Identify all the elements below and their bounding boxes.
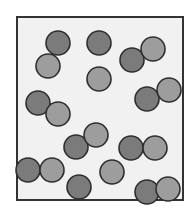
particle-dark — [67, 175, 91, 199]
particle-light — [157, 78, 181, 102]
particle-light — [46, 102, 70, 126]
particle-light — [141, 37, 165, 61]
particle-light — [36, 54, 60, 78]
particle-dark — [16, 158, 40, 182]
particle-light — [100, 160, 124, 184]
particle-dark — [87, 31, 111, 55]
particle-dark — [135, 87, 159, 111]
particle-diagram — [0, 0, 194, 208]
particle-light — [40, 158, 64, 182]
particle-dark — [135, 180, 159, 204]
particle-light — [84, 123, 108, 147]
particle-light — [156, 177, 180, 201]
particle-light — [143, 136, 167, 160]
particle-dark — [46, 31, 70, 55]
particle-dark — [119, 136, 143, 160]
particle-light — [87, 67, 111, 91]
particle-dark — [120, 48, 144, 72]
